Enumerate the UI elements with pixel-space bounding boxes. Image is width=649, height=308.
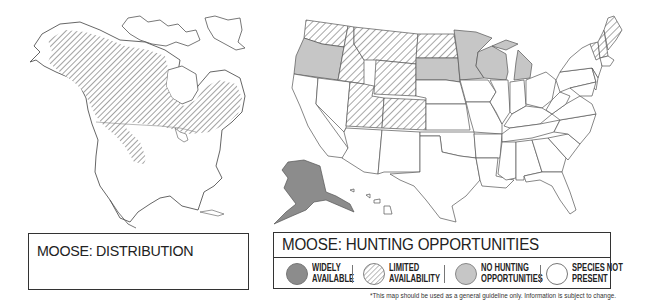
state-florida: [524, 172, 576, 214]
legend-label: NO HUNTING OPPORTUNITIES: [481, 262, 543, 284]
legend-label: LIMITED AVAILABILITY: [389, 262, 440, 284]
legend-item-limited-availability: LIMITED AVAILABILITY: [363, 261, 443, 287]
state-arkansas: [474, 134, 502, 158]
legend-separator: [540, 265, 541, 283]
state-kansas: [426, 104, 470, 130]
state-new-mexico: [378, 130, 420, 174]
state-south-dakota: [416, 58, 460, 82]
state-iowa: [460, 80, 496, 102]
north-america-distribution-map: [0, 0, 280, 230]
footnote: *This map should be used as a general gu…: [370, 292, 616, 299]
legend-item-no-hunting: NO HUNTING OPPORTUNITIES: [455, 261, 545, 287]
legend: WIDELY AVAILABLE LIMITED AVAILABILITY: [274, 258, 610, 289]
state-alaska: [274, 160, 354, 224]
state-hawaii: [350, 189, 392, 214]
legend-label: SPECIES NOT PRESENT: [572, 262, 623, 284]
greenland: [205, 16, 245, 50]
hunting-title: MOOSE: HUNTING OPPORTUNITIES: [282, 236, 539, 254]
state-arizona: [342, 128, 382, 174]
state-michigan: [514, 50, 532, 80]
state-maine: [604, 16, 622, 50]
state-montana: [354, 27, 418, 64]
solid-light-circle-icon: [455, 263, 477, 285]
legend-item-species-not-present: SPECIES NOT PRESENT: [546, 261, 610, 287]
hatched-circle-icon: [363, 261, 386, 287]
distribution-title-box: MOOSE: DISTRIBUTION: [28, 233, 249, 290]
state-wyoming: [374, 60, 416, 96]
legend-separator: [352, 265, 353, 283]
us-hunting-opportunities-map: [270, 0, 649, 230]
legend-item-widely-available: WIDELY AVAILABLE: [286, 261, 356, 287]
state-massachusetts: [600, 56, 614, 66]
state-colorado: [382, 98, 426, 130]
legend-label: WIDELY AVAILABLE: [312, 262, 354, 284]
distribution-title: MOOSE: DISTRIBUTION: [37, 242, 193, 260]
cuba: [200, 210, 224, 216]
empty-circle-icon: [546, 263, 568, 285]
solid-dark-circle-icon: [286, 263, 308, 285]
hunting-legend-box: MOOSE: HUNTING OPPORTUNITIES WIDELY AVAI…: [273, 232, 611, 289]
state-north-dakota: [416, 34, 458, 58]
hunting-title-row: MOOSE: HUNTING OPPORTUNITIES: [274, 233, 610, 258]
legend-separator: [444, 265, 445, 283]
